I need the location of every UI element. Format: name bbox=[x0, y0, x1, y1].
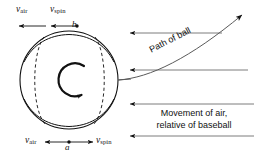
v-air-bottom-label: vair bbox=[25, 136, 36, 146]
baseball-seam-top-arc bbox=[21, 32, 117, 74]
baseball-seam-bottom bbox=[24, 99, 114, 127]
spin-rotation-arrow-icon bbox=[59, 63, 84, 96]
path-origin-stub bbox=[118, 79, 131, 80]
baseball-seam-right bbox=[94, 37, 104, 124]
point-a-label: a bbox=[65, 143, 70, 152]
baseball-magnus-effect-diagram: vair vspin b vair vspin a Path of ball M… bbox=[0, 0, 262, 154]
baseball-seam-left bbox=[35, 37, 45, 124]
v-air-top-label: vair bbox=[16, 5, 27, 15]
point-b-label: b bbox=[72, 20, 77, 29]
v-spin-top-label: vspin bbox=[50, 5, 66, 15]
air-movement-label: Movement of air,relative of baseball bbox=[134, 108, 254, 131]
v-spin-bottom-label: vspin bbox=[96, 136, 112, 146]
